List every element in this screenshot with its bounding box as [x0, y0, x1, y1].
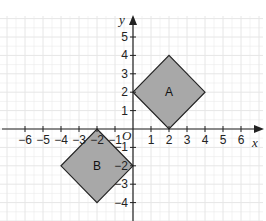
x-tick-label: 6 [238, 133, 245, 147]
y-tick-label: −1 [114, 140, 128, 154]
x-tick-label: 5 [220, 133, 227, 147]
x-tick-label: −4 [54, 133, 68, 147]
axes: x y O [2, 12, 264, 221]
x-axis-label: x [251, 135, 258, 150]
y-tick-label: 5 [121, 30, 128, 44]
x-tick-label: −5 [36, 133, 50, 147]
grid-lines [0, 16, 263, 221]
x-tick-label: 2 [166, 133, 173, 147]
x-tick-label: −2 [90, 133, 104, 147]
coordinate-grid: AB x y O −6−5−4−3−2−112345654321−1−2−3−4 [0, 0, 266, 221]
x-tick-label: 1 [148, 133, 155, 147]
shape-label-b: B [93, 159, 101, 173]
y-axis-label: y [117, 12, 125, 27]
shape-label-a: A [165, 85, 173, 99]
x-tick-label: −6 [18, 133, 32, 147]
y-tick-label: 3 [121, 67, 128, 81]
y-axis-arrow-icon [129, 15, 137, 25]
x-tick-label: −3 [72, 133, 86, 147]
y-tick-label: 2 [121, 85, 128, 99]
x-tick-label: 4 [202, 133, 209, 147]
y-tick-label: −4 [114, 196, 128, 210]
y-tick-label: 4 [121, 48, 128, 62]
y-tick-label: −3 [114, 177, 128, 191]
y-tick-label: 1 [121, 104, 128, 118]
x-tick-label: 3 [184, 133, 191, 147]
y-tick-label: −2 [114, 159, 128, 173]
